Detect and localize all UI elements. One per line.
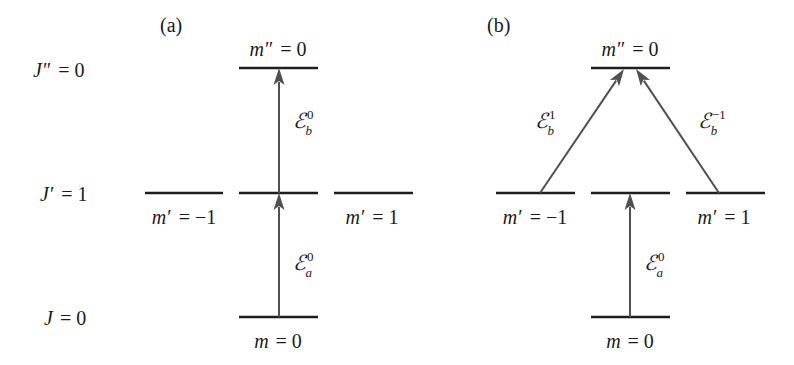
field-label-b-Ea0: ℰ0a [644, 249, 665, 280]
level-a-top: m″ = 0 [239, 38, 318, 68]
arrow-head-icon [636, 69, 650, 86]
field-label-a-Ea0: ℰ0a [293, 249, 314, 280]
level-label: m″ = 0 [601, 38, 658, 60]
panel-labels: (a)(b) [160, 14, 510, 37]
level-b-mid-right: m′ = 1 [686, 193, 765, 228]
energy-level-diagram: (a)(b) J″ = 0J′ = 1J = 0 m″ = 0m′ = −1m′… [0, 0, 794, 365]
level-a-bottom: m = 0 [239, 317, 318, 352]
panel-label-a: (a) [160, 14, 182, 37]
level-label: m″ = 0 [249, 38, 306, 60]
arrow-head-icon [610, 69, 624, 86]
arrow-shaft [644, 81, 719, 193]
row-labels: J″ = 0J′ = 1J = 0 [33, 59, 88, 329]
level-label: m = 0 [606, 330, 654, 352]
level-b-mid-left: m′ = −1 [496, 193, 575, 228]
level-b-top: m″ = 0 [591, 38, 670, 68]
transition-a-Eb0: ℰ0b [274, 68, 314, 193]
row-label-2: J = 0 [44, 307, 86, 329]
field-label-b-Eb-1: ℰ−1b [698, 107, 726, 138]
level-label: m′ = 1 [345, 206, 398, 228]
transition-b-Eb-1: ℰ−1b [636, 69, 726, 193]
level-a-mid-right: m′ = 1 [334, 193, 413, 228]
energy-levels: m″ = 0m′ = −1m′ = 1m = 0m″ = 0m′ = −1m′ … [145, 38, 765, 352]
level-a-mid-left: m′ = −1 [145, 193, 223, 228]
level-label: m′ = 1 [697, 206, 750, 228]
transition-b-Eb1: ℰ1b [535, 69, 624, 193]
transition-b-Ea0: ℰ0a [625, 193, 665, 317]
transition-a-Ea0: ℰ0a [274, 193, 314, 317]
level-label: m′ = −1 [152, 206, 216, 228]
level-b-bottom: m = 0 [591, 317, 670, 352]
panel-label-b: (b) [487, 14, 510, 37]
row-label-1: J′ = 1 [40, 183, 88, 205]
level-label: m = 0 [254, 330, 302, 352]
level-label: m′ = −1 [503, 206, 567, 228]
field-label-a-Eb0: ℰ0b [293, 107, 314, 138]
row-label-0: J″ = 0 [33, 59, 85, 81]
field-label-b-Eb1: ℰ1b [535, 107, 556, 138]
